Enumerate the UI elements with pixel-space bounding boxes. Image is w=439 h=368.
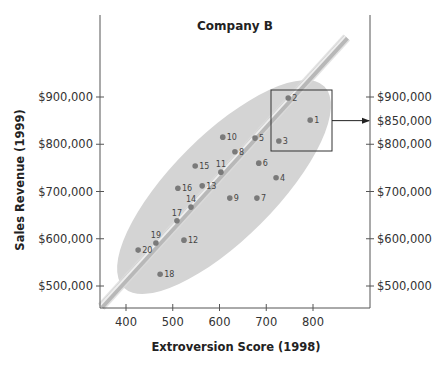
svg-text:7: 7: [261, 194, 266, 203]
scatter-chart: 400500600700800$500,000$600,000$700,000$…: [0, 0, 439, 368]
x-axis-title: Extroversion Score (1998): [151, 340, 320, 354]
svg-text:5: 5: [259, 134, 264, 143]
svg-text:12: 12: [188, 236, 198, 245]
svg-text:18: 18: [164, 270, 174, 279]
svg-text:13: 13: [206, 182, 216, 191]
svg-text:9: 9: [234, 194, 239, 203]
right-y-tick-label: $800,000: [377, 137, 432, 151]
svg-text:19: 19: [151, 231, 161, 240]
svg-text:6: 6: [263, 159, 268, 168]
right-y-tick-label: $500,000: [377, 279, 432, 293]
x-tick-label: 400: [115, 315, 137, 329]
svg-text:11: 11: [216, 160, 226, 169]
chart-title: Company B: [197, 19, 273, 33]
y-tick-label: $600,000: [38, 232, 93, 246]
x-tick-label: 800: [302, 315, 324, 329]
y-tick-label: $900,000: [38, 90, 93, 104]
right-y-tick-label: $700,000: [377, 185, 432, 199]
svg-text:1: 1: [314, 116, 319, 125]
y-tick-label: $800,000: [38, 137, 93, 151]
x-tick-label: 600: [209, 315, 231, 329]
y-axis-title: Sales Revenue (1999): [13, 109, 27, 250]
right-y-tick-label: $850,000: [377, 114, 432, 128]
svg-text:14: 14: [186, 195, 196, 204]
svg-text:17: 17: [172, 209, 182, 218]
svg-text:3: 3: [283, 137, 288, 146]
right-y-tick-label: $600,000: [377, 232, 432, 246]
svg-text:20: 20: [142, 246, 152, 255]
svg-text:8: 8: [239, 148, 244, 157]
svg-text:2: 2: [292, 94, 297, 103]
y-tick-label: $500,000: [38, 279, 93, 293]
svg-text:16: 16: [182, 184, 192, 193]
right-y-tick-label: $900,000: [377, 90, 432, 104]
x-tick-label: 500: [162, 315, 184, 329]
x-tick-label: 700: [255, 315, 277, 329]
svg-text:10: 10: [227, 133, 237, 142]
y-tick-label: $700,000: [38, 185, 93, 199]
svg-text:4: 4: [280, 174, 285, 183]
svg-text:15: 15: [199, 162, 209, 171]
